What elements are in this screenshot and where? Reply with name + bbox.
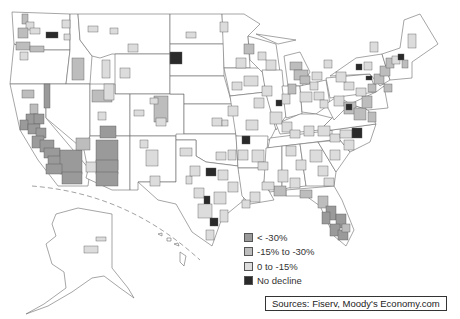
metro-area (228, 106, 238, 116)
metro-area (366, 76, 372, 80)
metro-area (344, 140, 354, 150)
legend-swatch (244, 247, 253, 256)
metro-area (318, 166, 328, 176)
metro-fairbanks (96, 237, 106, 241)
metro-area (64, 34, 70, 40)
metro-area (242, 200, 250, 208)
metro-area (20, 120, 28, 130)
metro-area (86, 162, 96, 172)
metro-area (110, 28, 118, 34)
metro-area (262, 182, 274, 190)
legend-label: No decline (257, 275, 302, 286)
metro-area (296, 160, 306, 170)
metro-area (354, 108, 366, 120)
metro-area (150, 98, 158, 104)
metro-area (88, 26, 98, 32)
metro-area (104, 84, 114, 100)
metro-area (310, 150, 322, 162)
metro-area (270, 112, 282, 124)
us-choropleth-map (0, 0, 460, 319)
metro-area (258, 162, 268, 170)
metro-area (206, 168, 216, 176)
metro-area (266, 60, 276, 70)
metro-area (228, 182, 238, 192)
metro-anchorage (84, 246, 98, 253)
metro-area (34, 114, 44, 124)
metro-area (244, 76, 258, 86)
metro-area (336, 72, 346, 82)
metro-area (46, 32, 58, 38)
metro-area (140, 140, 148, 148)
metro-area (344, 82, 354, 90)
legend-label: -15% to -30% (257, 246, 315, 257)
metro-area (364, 62, 372, 70)
metro-area (278, 170, 288, 182)
metro-area (352, 128, 362, 138)
metro-area (312, 72, 322, 80)
metro-area (242, 136, 250, 144)
metro-area (304, 126, 314, 136)
metro-area (236, 58, 246, 68)
metro-area (22, 90, 34, 98)
metro-area (300, 92, 312, 102)
metro-area (290, 178, 300, 188)
metro-area (100, 126, 116, 138)
metro-area (150, 176, 160, 186)
state-alaska (26, 208, 134, 314)
metro-area (146, 150, 158, 166)
metro-area (322, 212, 330, 224)
metro-area (218, 170, 228, 180)
metro-area (96, 172, 118, 186)
metro-area (384, 84, 392, 92)
legend-item: -15% to -30% (244, 245, 315, 260)
metro-area (262, 86, 272, 96)
metro-area (30, 28, 40, 34)
metro-area (368, 112, 376, 122)
state-north-dakota (170, 14, 224, 44)
legend-label: 0 to -15% (257, 261, 298, 272)
metro-area (222, 120, 228, 126)
metro-area (318, 126, 330, 136)
metro-area (186, 32, 196, 38)
metro-area (346, 104, 352, 110)
metro-area (356, 64, 362, 70)
metro-area (98, 112, 106, 120)
metro-area (402, 60, 408, 68)
metro-area (128, 44, 138, 52)
metro-area (194, 188, 204, 198)
legend-item: No decline (244, 274, 315, 289)
metro-area (30, 104, 38, 114)
metro-area (356, 88, 366, 96)
legend-swatch (244, 233, 253, 242)
metro-area (288, 84, 296, 94)
metro-area (214, 192, 226, 204)
metro-area (72, 58, 84, 80)
metro-area (198, 204, 212, 218)
metro-area (210, 218, 218, 226)
metro-area (220, 22, 228, 32)
metro-area (102, 60, 110, 78)
metro-area (216, 152, 226, 160)
metro-area (370, 42, 378, 52)
legend: < -30% -15% to -30% 0 to -15% No decline (244, 230, 315, 288)
metro-area (314, 92, 324, 100)
metro-area (286, 146, 296, 156)
metro-area (18, 28, 28, 38)
metro-area (300, 190, 312, 198)
metro-area (408, 34, 416, 48)
metro-area (246, 120, 258, 130)
state-hawaii-oahu (167, 238, 171, 241)
metro-area (310, 82, 318, 90)
metro-area (212, 118, 222, 126)
state-hawaii-big-island (180, 252, 186, 266)
metro-area (60, 150, 82, 174)
metro-area (334, 96, 344, 106)
metro-area (44, 84, 50, 108)
metro-area (238, 150, 248, 160)
metro-area (320, 100, 328, 108)
state-montana (78, 14, 170, 58)
metro-area (398, 54, 404, 60)
alaska-inset (26, 208, 134, 314)
metro-area (16, 42, 30, 50)
metro-area (342, 224, 350, 232)
